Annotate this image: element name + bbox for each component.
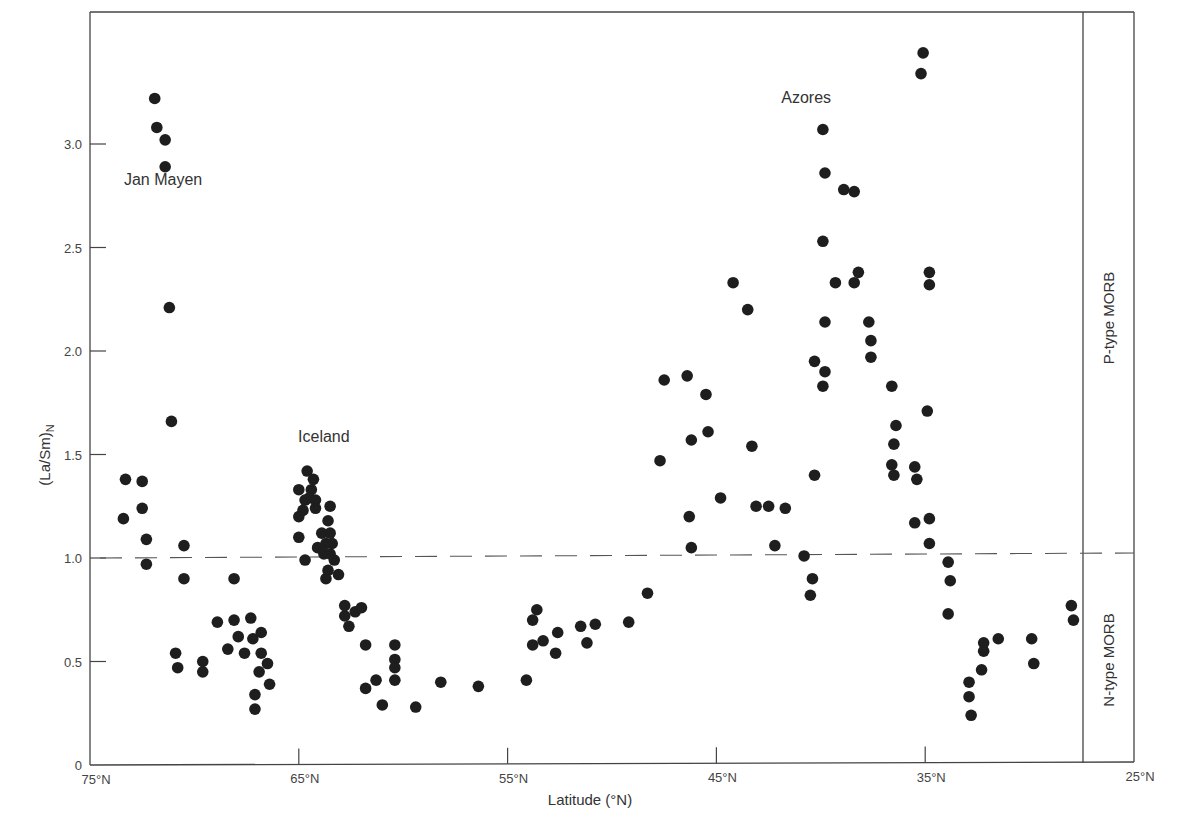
data-point bbox=[339, 610, 351, 622]
data-point bbox=[683, 511, 695, 523]
data-point bbox=[531, 604, 543, 616]
y-tick-label: 0.5 bbox=[64, 655, 82, 670]
data-point bbox=[521, 674, 533, 686]
data-point bbox=[1028, 658, 1040, 670]
data-point bbox=[886, 459, 898, 471]
data-point bbox=[992, 633, 1004, 645]
data-point bbox=[865, 335, 877, 347]
data-point bbox=[527, 639, 539, 651]
data-point bbox=[924, 267, 936, 279]
data-point bbox=[1068, 614, 1080, 626]
data-point bbox=[136, 476, 148, 488]
data-point bbox=[255, 647, 267, 659]
x-axis: 75°N65°N55°N45°N35°N25°N bbox=[81, 747, 1154, 787]
data-point bbox=[809, 356, 821, 368]
data-point bbox=[178, 540, 190, 552]
y-tick-label: 1.0 bbox=[64, 551, 82, 566]
x-axis-title: Latitude (°N) bbox=[548, 791, 632, 808]
data-point bbox=[654, 455, 666, 467]
data-point bbox=[264, 678, 276, 690]
data-point bbox=[742, 304, 754, 316]
data-point bbox=[819, 366, 831, 378]
data-point bbox=[249, 689, 261, 701]
data-point bbox=[807, 573, 819, 585]
y-tick-label: 1.5 bbox=[64, 448, 82, 463]
data-point bbox=[924, 538, 936, 550]
data-point bbox=[830, 277, 842, 289]
data-point bbox=[222, 643, 234, 655]
y-axis-title: (La/Sm)N bbox=[36, 424, 56, 485]
x-tick-label: 25°N bbox=[1125, 769, 1154, 784]
data-point bbox=[686, 434, 698, 446]
data-point bbox=[575, 621, 587, 633]
data-point bbox=[763, 500, 775, 512]
data-point bbox=[642, 587, 654, 599]
data-point bbox=[550, 647, 562, 659]
data-point bbox=[360, 639, 372, 651]
data-point bbox=[1026, 633, 1038, 645]
y-tick-label: 2.5 bbox=[64, 241, 82, 256]
data-point bbox=[686, 542, 698, 554]
data-point bbox=[151, 122, 163, 134]
data-point bbox=[136, 503, 148, 515]
data-point bbox=[658, 374, 670, 386]
data-point bbox=[249, 703, 261, 715]
data-point bbox=[805, 589, 817, 601]
y-tick-label: 0 bbox=[75, 758, 82, 773]
data-point bbox=[623, 616, 635, 628]
data-point bbox=[888, 469, 900, 481]
y-axis: 00.51.01.52.02.53.0 bbox=[64, 137, 106, 773]
data-point bbox=[343, 621, 355, 633]
data-point bbox=[389, 662, 401, 674]
data-point bbox=[589, 618, 601, 630]
data-point bbox=[750, 500, 762, 512]
data-point bbox=[909, 517, 921, 529]
data-point bbox=[819, 167, 831, 179]
data-point bbox=[976, 664, 988, 676]
annotation-label: Iceland bbox=[298, 428, 350, 445]
y-axis-title-main: (La/Sm) bbox=[36, 432, 53, 485]
data-point bbox=[326, 538, 338, 550]
data-point bbox=[310, 503, 322, 515]
data-point bbox=[978, 645, 990, 657]
reference-line-1-0 bbox=[100, 553, 1134, 558]
data-point bbox=[141, 534, 153, 546]
n-type-morb-label: N-type MORB bbox=[1100, 613, 1117, 706]
data-point bbox=[322, 515, 334, 527]
data-point bbox=[178, 573, 190, 585]
data-point bbox=[212, 616, 224, 628]
data-point bbox=[848, 277, 860, 289]
data-point bbox=[299, 554, 311, 566]
y-axis-title-subscript: N bbox=[44, 424, 56, 432]
data-point bbox=[924, 279, 936, 291]
data-point bbox=[888, 438, 900, 450]
data-point bbox=[333, 569, 345, 581]
p-type-morb-label: P-type MORB bbox=[1100, 272, 1117, 365]
data-point bbox=[293, 532, 305, 544]
data-point bbox=[924, 513, 936, 525]
data-point bbox=[410, 701, 422, 713]
data-point bbox=[228, 614, 240, 626]
data-point bbox=[817, 380, 829, 392]
data-point bbox=[817, 124, 829, 136]
data-point bbox=[552, 627, 564, 639]
data-point bbox=[324, 527, 336, 539]
data-point bbox=[149, 93, 161, 105]
scatter-chart: 00.51.01.52.02.53.0 75°N65°N55°N45°N35°N… bbox=[0, 0, 1186, 839]
data-point bbox=[963, 691, 975, 703]
x-tick-label: 35°N bbox=[917, 770, 946, 785]
data-point bbox=[581, 637, 593, 649]
data-point bbox=[299, 494, 311, 506]
data-point bbox=[360, 683, 372, 695]
data-point bbox=[780, 503, 792, 515]
y-tick-label: 3.0 bbox=[64, 137, 82, 152]
annotation-label: Azores bbox=[781, 89, 831, 106]
data-point bbox=[942, 556, 954, 568]
data-point bbox=[164, 302, 176, 314]
x-axis-line bbox=[90, 762, 1134, 765]
data-point bbox=[886, 380, 898, 392]
data-point bbox=[118, 513, 130, 525]
data-point bbox=[141, 558, 153, 570]
data-point bbox=[681, 370, 693, 382]
data-point bbox=[727, 277, 739, 289]
